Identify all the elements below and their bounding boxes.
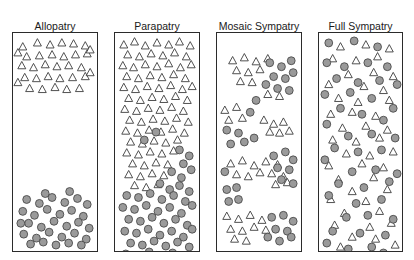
species-a-triangle <box>238 227 246 234</box>
species-b-circle <box>127 239 135 247</box>
species-b-circle <box>272 225 280 233</box>
species-b-circle <box>364 211 372 219</box>
panel-plot-area-full-sympatry <box>318 32 403 252</box>
species-a-triangle <box>391 241 399 248</box>
species-b-circle <box>337 104 345 112</box>
species-a-triangle <box>123 72 131 79</box>
species-a-triangle <box>362 41 370 48</box>
species-a-triangle <box>161 117 169 124</box>
species-b-circle <box>389 215 397 223</box>
panel-title-mosaic-sympatry: Mosaic Sympatry <box>216 20 302 32</box>
species-a-triangle <box>158 150 166 157</box>
species-a-triangle <box>137 118 145 125</box>
species-a-triangle <box>56 74 64 81</box>
species-a-triangle <box>152 159 160 166</box>
species-b-circle <box>391 134 399 142</box>
species-b-circle <box>344 132 352 140</box>
species-b-circle <box>176 146 184 154</box>
species-a-triangle <box>180 129 188 136</box>
species-b-circle <box>385 178 393 186</box>
species-a-triangle <box>182 53 190 60</box>
species-b-circle <box>63 222 71 230</box>
species-b-circle <box>289 69 297 77</box>
species-a-triangle <box>131 38 139 45</box>
species-b-circle <box>119 203 127 211</box>
species-a-triangle <box>329 136 337 143</box>
species-a-triangle <box>125 94 133 101</box>
species-a-triangle <box>352 138 360 145</box>
species-a-triangle <box>164 161 172 168</box>
species-b-circle <box>233 184 241 192</box>
species-b-circle <box>41 190 49 198</box>
species-b-circle <box>50 217 58 225</box>
species-b-circle <box>285 166 293 174</box>
species-b-circle <box>125 215 133 223</box>
species-a-triangle <box>159 52 167 59</box>
species-a-triangle <box>122 127 130 134</box>
panel-title-parapatry: Parapatry <box>114 20 200 32</box>
species-a-triangle <box>258 216 266 223</box>
species-b-circle <box>323 120 331 128</box>
species-b-circle <box>158 196 166 204</box>
species-a-triangle <box>160 171 168 178</box>
species-b-circle <box>223 126 231 134</box>
symbol-layer-full-sympatry <box>319 33 402 251</box>
species-a-triangle <box>337 243 345 250</box>
species-b-circle <box>20 230 28 238</box>
species-b-circle <box>380 249 388 251</box>
species-a-triangle <box>135 53 143 60</box>
species-a-triangle <box>352 56 360 63</box>
species-a-triangle <box>126 116 134 123</box>
species-b-circle <box>71 229 79 237</box>
species-b-circle <box>266 59 274 67</box>
species-a-triangle <box>153 39 161 46</box>
species-b-circle <box>270 152 278 160</box>
species-a-triangle <box>148 93 156 100</box>
species-a-triangle <box>248 78 256 85</box>
species-a-triangle <box>140 162 148 169</box>
symbol-layer-allopatry <box>13 33 97 251</box>
species-b-circle <box>31 211 39 219</box>
species-a-triangle <box>344 70 352 77</box>
species-a-triangle <box>148 169 156 176</box>
species-a-triangle <box>134 74 142 81</box>
species-a-triangle <box>227 225 235 232</box>
species-a-triangle <box>65 61 73 68</box>
species-a-triangle <box>167 81 175 88</box>
species-b-circle <box>122 250 130 251</box>
species-b-circle <box>333 75 341 83</box>
species-b-circle <box>58 233 66 241</box>
species-b-circle <box>340 63 348 71</box>
species-b-circle <box>187 166 195 174</box>
species-b-circle <box>278 63 286 71</box>
species-a-triangle <box>121 105 129 112</box>
panel-title-full-sympatry: Full Sympatry <box>318 20 403 32</box>
species-b-circle <box>135 194 143 202</box>
species-b-circle <box>276 237 284 245</box>
species-a-triangle <box>168 103 176 110</box>
species-b-circle <box>289 217 297 225</box>
species-a-triangle <box>18 61 26 68</box>
species-b-circle <box>176 182 184 190</box>
species-b-circle <box>225 197 233 205</box>
species-a-triangle <box>141 60 149 67</box>
species-a-triangle <box>270 120 278 127</box>
species-a-triangle <box>370 173 378 180</box>
species-b-circle <box>368 94 376 102</box>
species-a-triangle <box>256 168 264 175</box>
species-b-circle <box>160 219 168 227</box>
species-b-circle <box>223 186 231 194</box>
panel-plot-area-allopatry <box>12 32 98 252</box>
species-b-circle <box>356 229 364 237</box>
species-a-triangle <box>169 125 177 132</box>
species-b-circle <box>221 168 229 176</box>
species-a-triangle <box>389 148 397 155</box>
species-a-triangle <box>178 85 186 92</box>
species-a-triangle <box>227 160 235 167</box>
species-a-triangle <box>229 56 237 63</box>
species-a-triangle <box>155 84 163 91</box>
species-b-circle <box>368 243 376 251</box>
species-a-triangle <box>124 51 132 58</box>
species-a-triangle <box>172 92 180 99</box>
species-a-triangle <box>120 41 128 48</box>
